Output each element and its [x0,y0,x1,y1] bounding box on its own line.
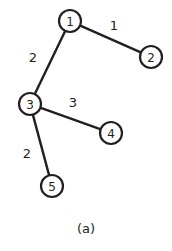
figure-caption: (a) [77,221,95,236]
graph-diagram: 12345 1232 (a) [0,0,172,251]
graph-node-4[interactable]: 4 [100,122,122,144]
figure-panel: 12345 1232 (a) [0,0,172,251]
graph-node-1[interactable]: 1 [59,10,81,32]
graph-edge-1-3 [34,30,65,95]
graph-node-3[interactable]: 3 [19,93,41,115]
node-label-1: 1 [66,15,74,29]
edge-weight-1-2: 1 [110,18,118,33]
edges-group [33,25,142,176]
node-label-5: 5 [48,180,56,194]
graph-edge-3-5 [33,114,50,177]
graph-node-2[interactable]: 2 [140,46,162,68]
edge-weight-3-4: 3 [69,95,77,110]
node-label-2: 2 [147,51,155,65]
node-label-4: 4 [107,127,115,141]
edge-weight-3-5: 2 [23,146,31,161]
graph-edge-3-4 [39,107,101,129]
edge-weight-1-3: 2 [29,50,37,65]
node-label-3: 3 [26,98,34,112]
nodes-group: 12345 [19,10,162,197]
graph-node-5[interactable]: 5 [41,175,63,197]
